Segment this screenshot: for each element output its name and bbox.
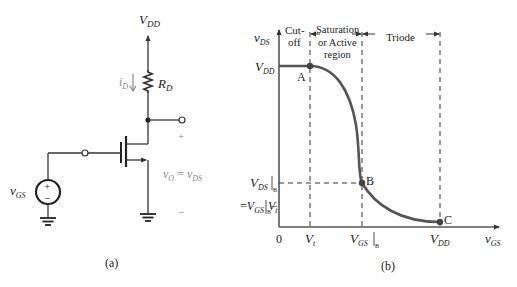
ground-icon (40, 218, 56, 225)
nmos-transistor-icon (121, 136, 148, 214)
svg-text:B: B (375, 243, 379, 249)
x-tick-vdd: VDD (430, 231, 450, 248)
source-minus-sign: − (44, 192, 50, 204)
resistor-label: RD (157, 76, 173, 93)
source-plus-sign: + (44, 180, 50, 192)
output-terminal (179, 117, 185, 123)
y-tick-vds-b: VDS B (250, 175, 277, 193)
point-a-label: A (297, 70, 306, 84)
origin-label: 0 (276, 232, 282, 246)
saturation-label-1: Saturation (316, 24, 360, 35)
svg-text:B: B (273, 187, 277, 193)
x-axis-label: vGS (485, 231, 501, 248)
input-voltage-label: vGS (10, 183, 26, 200)
point-c (437, 219, 443, 225)
point-c-label: C (444, 213, 452, 227)
triode-label: Triode (386, 31, 415, 43)
saturation-label-2: or Active (318, 37, 357, 48)
drain-current-label: iD (119, 75, 128, 91)
transfer-curve (279, 66, 440, 222)
x-tick-vt: Vt (305, 231, 316, 248)
resistor-icon (144, 70, 152, 93)
ground-icon (140, 214, 156, 221)
vdd-supply-label: VDD (139, 12, 160, 29)
svg-text:VGS: VGS (350, 231, 368, 248)
output-voltage-label: vO = vDS (163, 167, 202, 183)
figure-canvas: VDD RD iD + − vO = vDS + (0, 0, 517, 287)
x-tick-vgs-b: VGS B (350, 231, 379, 249)
point-b (359, 180, 365, 186)
y-tick-vdd: VDD (255, 59, 275, 76)
svg-text:=VGS: =VGS (240, 199, 264, 215)
circuit-schematic: VDD RD iD + − vO = vDS + (10, 12, 202, 270)
svg-text:VDS: VDS (250, 175, 268, 192)
point-b-label: B (366, 174, 374, 188)
graph-caption: (b) (381, 259, 395, 273)
transfer-characteristic-graph: vDS vGS 0 Cut- off Saturation or Active … (240, 24, 501, 273)
point-a (307, 63, 313, 69)
cutoff-label-2: off (288, 36, 301, 48)
saturation-label-3: region (324, 49, 352, 60)
output-minus-sign: − (178, 206, 184, 218)
output-plus-sign: + (178, 130, 184, 142)
gate-input-terminal (82, 150, 88, 156)
cutoff-label-1: Cut- (285, 24, 305, 36)
circuit-caption: (a) (105, 256, 118, 270)
y-axis-label: vDS (254, 30, 270, 47)
